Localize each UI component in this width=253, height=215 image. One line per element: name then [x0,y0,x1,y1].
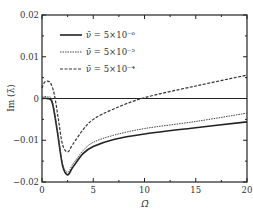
y-tick-label: −0.01 [13,135,39,145]
series-dashed [42,75,247,152]
y-tick-label: 0.01 [20,52,39,62]
curves [42,75,247,175]
x-tick-label: 20 [242,185,253,195]
x-tick-label: 0 [39,185,44,195]
x-tick-label: 5 [91,185,96,195]
y-axis-label: Im (λ̄) [6,84,16,112]
y-tick-label: 0 [34,94,39,104]
x-axis-label: Ω̄ [140,199,149,209]
legend-item-3: ν̄ = 5×10⁻⁴ [86,64,136,74]
y-tick-label: −0.02 [13,177,39,187]
plot-area: 051015200.020.010−0.01−0.02 ν̄ = 5×10⁻⁶ … [0,0,253,215]
series-solid [42,98,247,175]
y-tick-label: 0.02 [20,10,39,20]
legend: ν̄ = 5×10⁻⁶ ν̄ = 5×10⁻⁵ ν̄ = 5×10⁻⁴ [60,30,136,74]
x-tick-label: 10 [139,185,150,195]
legend-item-2: ν̄ = 5×10⁻⁵ [86,47,136,57]
legend-item-1: ν̄ = 5×10⁻⁶ [86,30,136,40]
x-tick-label: 15 [190,185,201,195]
chart: 051015200.020.010−0.01−0.02 ν̄ = 5×10⁻⁶ … [0,0,253,215]
